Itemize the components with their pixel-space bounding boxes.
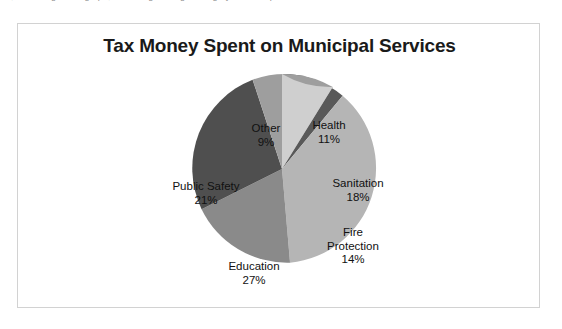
pie-label-fire-protection-percent: 14%	[312, 253, 394, 267]
pie-label-sanitation-percent: 18%	[319, 191, 397, 205]
pie-label-fire-protection-line2: Protection	[312, 240, 394, 254]
pie-label-public-safety-percent: 21%	[161, 194, 251, 208]
pie-label-other-text: Other	[252, 122, 281, 134]
pie-label-health-percent: 11%	[299, 133, 359, 147]
chart-title: Tax Money Spent on Municipal Services	[18, 35, 541, 57]
figure-container: Tax Money Spent on Municipal Services He…	[17, 23, 540, 308]
pie-label-health: Health 11%	[299, 119, 359, 146]
clipped-text-line: e, according to the graph, is the larges…	[6, 0, 282, 1]
pie-label-sanitation-text: Sanitation	[332, 177, 383, 189]
pie-label-fire-protection-line1: Fire	[343, 226, 363, 238]
pie-label-fire-protection: Fire Protection 14%	[312, 226, 394, 267]
pie-label-other-percent: 9%	[240, 136, 292, 150]
pie-label-other: Other 9%	[240, 122, 292, 149]
pie-label-public-safety-text: Public Safety	[172, 180, 239, 192]
pie-label-health-text: Health	[312, 119, 345, 131]
pie-label-sanitation: Sanitation 18%	[319, 177, 397, 204]
pie-label-education-percent: 27%	[215, 274, 293, 288]
pie-label-public-safety: Public Safety 21%	[161, 180, 251, 207]
pie-label-education: Education 27%	[215, 260, 293, 287]
clipped-text-above-figure: e, according to the graph, is the larges…	[0, 0, 562, 9]
pie-label-education-text: Education	[228, 260, 279, 272]
